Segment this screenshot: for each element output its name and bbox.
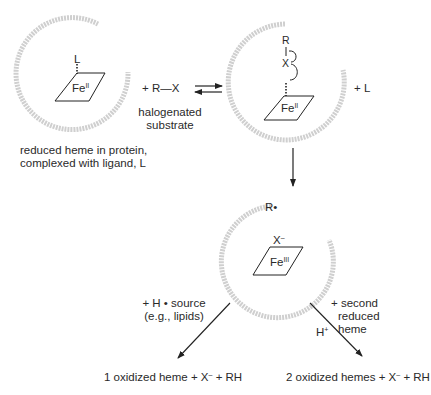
proton-label: H+ (316, 326, 328, 339)
h-source-condition: + H • source (e.g., lipids) (132, 297, 216, 323)
iron-label-1: FeII (72, 82, 89, 95)
substrate-caption: halogenated substrate (134, 106, 206, 132)
x-atom-label: X (282, 57, 289, 70)
heme-caption: reduced heme in protein, complexed with … (20, 144, 147, 170)
protein-arc-1 (16, 18, 128, 130)
right-product: 2 oxidized hemes + X– + RH (286, 371, 430, 384)
left-product: 1 oxidized heme + X– + RH (104, 371, 242, 384)
iron-label-2: FeII (281, 102, 298, 115)
ligand-label: L (74, 53, 80, 66)
r-atom-label: R (282, 34, 290, 47)
radical-label: R• (265, 201, 277, 214)
electron-arrow-1 (289, 51, 296, 62)
substrate-formula: + R—X (142, 82, 179, 95)
released-ligand: + L (354, 82, 370, 95)
electron-arrow-2 (290, 64, 297, 80)
iron-label-3: FeIII (270, 256, 289, 269)
halide-label: X– (273, 234, 285, 247)
second-heme-condition: + second reduced heme (331, 297, 380, 336)
